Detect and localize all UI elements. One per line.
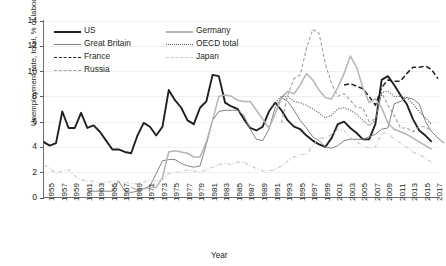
legend-label: Germany: [196, 25, 230, 35]
x-axis-tick-label: 1987: [247, 183, 256, 201]
x-axis-tick-label: 1957: [60, 183, 69, 201]
x-axis-tick-label: 1977: [185, 183, 194, 201]
x-axis-tick-label: 1959: [72, 183, 81, 201]
x-axis-tick-label: 2003: [348, 183, 357, 201]
x-axis-tick-label: 1999: [323, 183, 332, 201]
x-axis-tick-label: 2001: [335, 183, 344, 201]
x-axis-tick-label: 1995: [298, 183, 307, 201]
legend-swatch-icon: [54, 44, 81, 45]
x-axis-tick-label: 1979: [197, 183, 206, 201]
x-axis-tick-label: 1969: [135, 183, 144, 201]
series-line-russia: [281, 29, 431, 131]
x-axis-tick-label: 1961: [85, 183, 94, 201]
x-axis-tick-label: 1983: [222, 183, 231, 201]
legend-swatch-icon: [54, 70, 81, 71]
legend-label: France: [84, 51, 110, 61]
legend-swatch-icon: [54, 57, 81, 58]
x-axis-tick-label: 1975: [172, 183, 181, 201]
x-axis-tick-label: 2015: [423, 183, 432, 201]
x-axis-tick-label: 1985: [235, 183, 244, 201]
x-axis-tick-label: 1989: [260, 183, 269, 201]
x-axis-tick-label: 2017: [435, 183, 444, 201]
x-axis-tick-label: 1971: [147, 183, 156, 201]
x-axis-tick-label: 1997: [310, 183, 319, 201]
x-axis-title: Year: [211, 251, 228, 260]
x-axis-tick-label: 1955: [47, 183, 56, 201]
x-axis-tick-label: 1993: [285, 183, 294, 201]
unemployment-rate-line-chart: Unemployment rate, total, % of labour fo…: [0, 0, 446, 266]
legend-label: Japan: [196, 51, 219, 61]
x-axis-tick-label: 1973: [160, 183, 169, 201]
series-line-us: [44, 75, 432, 153]
legend-swatch-icon: [166, 57, 193, 58]
series-line-japan: [44, 129, 432, 183]
legend-label: US: [84, 25, 96, 35]
x-axis-tick-label: 1965: [110, 183, 119, 201]
x-axis-tick-label: 2005: [360, 183, 369, 201]
legend-label: Great Britain: [84, 38, 131, 48]
legend-label: OECD total: [196, 38, 238, 48]
series-line-oecd-total: [269, 91, 432, 125]
x-axis-tick-label: 1963: [97, 183, 106, 201]
x-axis-tick-label: 1981: [210, 183, 219, 201]
x-axis-tick-label: 2013: [410, 183, 419, 201]
series-line-great-britain: [87, 98, 444, 193]
x-axis-tick-label: 2011: [398, 184, 407, 201]
x-axis-tick-label: 1967: [122, 183, 131, 201]
x-axis-tick-label: 2009: [385, 183, 394, 201]
x-axis-tick-label: 1991: [273, 183, 282, 201]
legend-label: Russia: [84, 64, 110, 74]
legend-swatch-icon: [166, 44, 193, 45]
legend-swatch-icon: [54, 31, 81, 33]
x-axis-tick-label: 2007: [373, 183, 382, 201]
legend-swatch-icon: [166, 31, 193, 33]
